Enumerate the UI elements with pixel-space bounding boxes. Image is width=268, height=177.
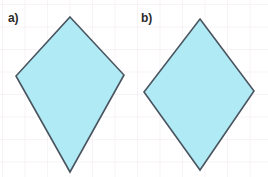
shape-b-label: b) (141, 12, 152, 24)
shape-a-label: a) (8, 12, 18, 24)
shape-a-kite (16, 17, 124, 172)
figure-canvas: a) b) (0, 0, 268, 177)
shapes-layer (0, 0, 268, 177)
shape-b-rhombus (144, 19, 254, 170)
